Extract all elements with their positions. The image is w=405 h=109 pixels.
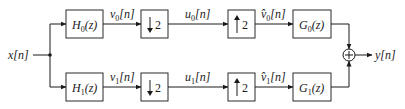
upsample-factor: 2 <box>242 18 248 32</box>
g0-label: G0(z) <box>299 18 324 34</box>
h0-label: H0(z) <box>71 18 97 34</box>
upsample-factor: 2 <box>242 81 248 95</box>
g1-label: G1(z) <box>299 81 324 97</box>
vhat0-label: v̂0[n] <box>261 7 286 23</box>
v0-label: v0[n] <box>110 7 135 23</box>
output-label: y[n] <box>374 48 396 62</box>
u1-label: u1[n] <box>185 70 211 86</box>
g1-to-sum-wire <box>331 61 349 87</box>
channel-0: H0(z) v0[n] 2 u0[n] 2 v̂0[n] G0(z) <box>66 7 349 49</box>
g0-to-sum-wire <box>331 24 349 49</box>
channel-1: H1(z) v1[n] 2 u1[n] 2 v̂1[n] G1(z) <box>66 61 349 101</box>
v1-label: v1[n] <box>110 70 135 86</box>
downsample-factor: 2 <box>155 18 161 32</box>
h1-label: H1(z) <box>71 81 97 97</box>
downsample-factor: 2 <box>155 81 161 95</box>
vhat1-label: v̂1[n] <box>261 70 286 86</box>
filter-bank-diagram: x[n] H0(z) v0[n] 2 u0[n] 2 v̂0[n] G0(z) … <box>0 0 405 109</box>
u0-label: u0[n] <box>185 7 211 23</box>
input-label: x[n] <box>7 48 29 62</box>
